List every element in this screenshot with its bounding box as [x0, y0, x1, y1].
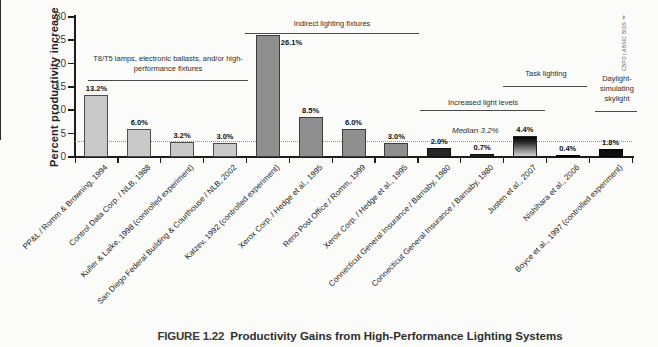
bar-value-label: 4.4%: [505, 125, 545, 134]
group-label-increased-light: Increased light levels: [413, 98, 553, 108]
y-tick-mark: [68, 16, 74, 18]
bar-xerox-corp-hedge-et-al-1995: [299, 117, 323, 157]
x-tick-mark: [503, 158, 504, 163]
bar-value-label: 6.0%: [119, 118, 159, 127]
x-tick-mark: [460, 158, 461, 163]
bar-kuller-laike-1998-controlled-e: [170, 142, 194, 157]
bar-value-label: 26.1%: [281, 38, 315, 47]
bar-control-data-corp-nlb-1988: [127, 129, 151, 157]
figure-page: Percent productivity increase 0510152025…: [0, 0, 658, 347]
bar-pp-l-romm-browning-1994: [84, 95, 108, 157]
bar-reno-post-office-romm-1999: [342, 129, 366, 157]
y-tick-mark: [68, 39, 74, 41]
x-tick-mark: [75, 158, 76, 163]
x-tick-mark: [332, 158, 333, 163]
bar-connecticut-general-insurance-: [470, 154, 494, 157]
group-underline-t8t5-lamps: [88, 80, 248, 81]
x-tick-mark: [246, 158, 247, 163]
bar-value-label: 3.0%: [205, 132, 245, 141]
y-tick-label: 20: [40, 58, 66, 69]
median-annotation: Median 3.2%: [452, 126, 499, 135]
bar-connecticut-general-insurance-: [427, 148, 451, 157]
x-tick-mark: [417, 158, 418, 163]
bar-justen-et-al-2007: [513, 136, 537, 157]
y-tick-label: 0: [40, 151, 66, 162]
plot-right-border: [0, 0, 1, 140]
bar-value-label: 3.2%: [162, 131, 202, 140]
group-label-t8t5-lamps: T8/T5 lamps, electronic ballasts, and/or…: [83, 54, 253, 73]
bar-value-label: 1.8%: [591, 138, 631, 147]
bar-value-label: 6.0%: [334, 118, 374, 127]
group-underline-task-lighting: [503, 86, 587, 87]
x-tick-mark: [203, 158, 204, 163]
source-credit-vertical: CBPD | ABSIC BIDS ™: [621, 15, 627, 71]
y-tick-mark: [68, 63, 74, 65]
x-tick-mark: [374, 158, 375, 163]
bar-boyce-et-al-1997-controlled-ex: [599, 149, 623, 157]
bar-value-label: 13.2%: [76, 84, 116, 93]
bar-xerox-corp-hedge-et-al-1995: [384, 143, 408, 157]
y-tick-label: 30: [40, 11, 66, 22]
figure-caption: FIGURE 1.22Productivity Gains from High-…: [100, 330, 620, 342]
x-tick-mark: [117, 158, 118, 163]
y-tick-mark: [68, 156, 74, 158]
x-tick-mark: [632, 158, 633, 163]
bar-value-label: 2.0%: [419, 137, 459, 146]
y-tick-mark: [68, 109, 74, 111]
group-label-task-lighting: Task lighting: [496, 69, 596, 79]
y-tick-mark: [68, 133, 74, 135]
bar-value-label: 0.4%: [548, 144, 588, 153]
y-tick-label: 25: [40, 34, 66, 45]
bar-value-label: 3.0%: [376, 132, 416, 141]
bar-san-diego-federal-building-cou: [213, 143, 237, 157]
bar-nishihara-et-al-2006: [556, 155, 580, 157]
y-tick-label: 15: [40, 81, 66, 92]
group-underline-indirect-fixtures: [245, 33, 419, 34]
group-underline-daylight-skylight: [595, 111, 637, 112]
bar-value-label: 8.5%: [291, 106, 331, 115]
bar-value-label: 0.7%: [462, 143, 502, 152]
x-tick-mark: [589, 158, 590, 163]
bar-katzev-1992-controlled-experim: [256, 35, 280, 157]
group-label-indirect-fixtures: Indirect lighting fixtures: [257, 19, 407, 29]
plot-area: 051015202530 13.2%6.0%3.2%3.0%26.1%8.5%6…: [0, 0, 658, 140]
x-tick-mark: [546, 158, 547, 163]
y-tick-label: 10: [40, 104, 66, 115]
group-underline-increased-light: [420, 110, 545, 111]
y-tick-label: 5: [40, 128, 66, 139]
x-tick-mark: [289, 158, 290, 163]
group-label-daylight-skylight: Daylight-simulating skylight: [590, 74, 644, 104]
x-tick-mark: [160, 158, 161, 163]
y-tick-mark: [68, 86, 74, 88]
